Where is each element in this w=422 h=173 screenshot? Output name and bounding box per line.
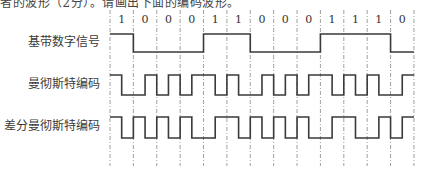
manchester-waveform: [110, 75, 414, 95]
bit-value: 0: [165, 13, 172, 26]
bit-value: 0: [305, 13, 312, 26]
bit-value: 0: [258, 13, 265, 26]
bit-value: 0: [399, 13, 406, 26]
bit-value: 1: [352, 13, 359, 26]
bit-value: 1: [329, 13, 336, 26]
bit-value: 1: [235, 13, 242, 26]
bit-value: 0: [142, 13, 149, 26]
bit-value: 1: [212, 13, 219, 26]
bit-value: 1: [118, 13, 125, 26]
bit-value: 0: [282, 13, 289, 26]
waveform-diagram: 1000110001110: [0, 0, 422, 173]
bit-labels: 1000110001110: [118, 13, 406, 26]
bit-value: 1: [375, 13, 382, 26]
bit-value: 0: [188, 13, 195, 26]
differential-manchester-waveform: [110, 117, 414, 138]
baseband-waveform: [110, 34, 414, 52]
